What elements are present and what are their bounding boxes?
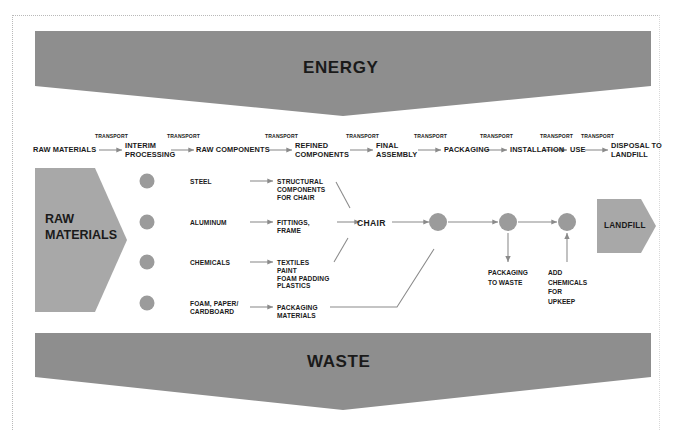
- transport-label-6: TRANSPORT: [480, 133, 513, 139]
- stage-label-interim-processing: INTERIM PROCESSING: [125, 142, 175, 159]
- flow-node-use: [558, 213, 576, 231]
- material-label-chemicals: CHEMICALS: [190, 259, 230, 267]
- component-label-structural-components: STRUCTURAL COMPONENTS FOR CHAIR: [277, 178, 325, 201]
- component-label-fittings-frame: FITTINGS, FRAME: [277, 219, 310, 235]
- stage-label-refined-components: REFINED COMPONENTS: [295, 142, 349, 159]
- stage-label-installation: INSTALLATION: [510, 146, 564, 155]
- transport-label-4: TRANSPORT: [346, 133, 379, 139]
- transport-label-5: TRANSPORT: [414, 133, 447, 139]
- transport-label-1: TRANSPORT: [95, 133, 128, 139]
- raw-materials-chevron-label: RAW MATERIALS: [45, 212, 117, 243]
- flow-node-installation: [499, 213, 517, 231]
- stage-label-packaging: PACKAGING: [444, 146, 490, 155]
- steel-to-chair-line: [336, 182, 350, 208]
- stage-label-raw-components: RAW COMPONENTS: [196, 146, 270, 155]
- stage-label-final-assembly: FINAL ASSEMBLY: [376, 142, 417, 159]
- material-node-chemicals: [140, 255, 155, 270]
- packaging-materials-path: [330, 249, 434, 307]
- note-label-add-chemicals-for-upkeep: ADD CHEMICALS FOR UPKEEP: [548, 268, 587, 306]
- material-label-foam-paper-cardboard: FOAM, PAPER/ CARDBOARD: [190, 300, 238, 316]
- material-node-foam: [140, 296, 155, 311]
- transport-label-3: TRANSPORT: [265, 133, 298, 139]
- note-label-packaging-to-waste: PACKAGING TO WASTE: [488, 268, 528, 287]
- stage-label-raw-materials: RAW MATERIALS: [33, 146, 96, 155]
- landfill-chevron-label: LANDFILL: [604, 221, 646, 231]
- transport-label-2: TRANSPORT: [167, 133, 200, 139]
- stage-label-use: USE: [570, 146, 586, 155]
- transport-label-8: TRANSPORT: [581, 133, 614, 139]
- waste-banner-label: WASTE: [307, 352, 370, 372]
- material-label-aluminum: ALUMINUM: [190, 219, 227, 227]
- material-node-steel: [140, 174, 155, 189]
- transport-label-7: TRANSPORT: [540, 133, 573, 139]
- textiles-to-chair-line: [334, 238, 348, 262]
- component-label-textiles-paint: TEXTILES PAINT FOAM PADDING PLASTICS: [277, 259, 329, 290]
- energy-banner-label: ENERGY: [303, 58, 378, 78]
- material-arrow-group: [250, 181, 273, 307]
- stage-label-disposal-to-landfill: DISPOSAL TO LANDFILL: [611, 142, 662, 159]
- component-label-packaging-materials: PACKAGING MATERIALS: [277, 304, 318, 320]
- material-node-aluminum: [140, 215, 155, 230]
- material-label-steel: STEEL: [190, 178, 212, 186]
- flow-node-assembly: [429, 213, 447, 231]
- product-label-chair: CHAIR: [357, 218, 386, 228]
